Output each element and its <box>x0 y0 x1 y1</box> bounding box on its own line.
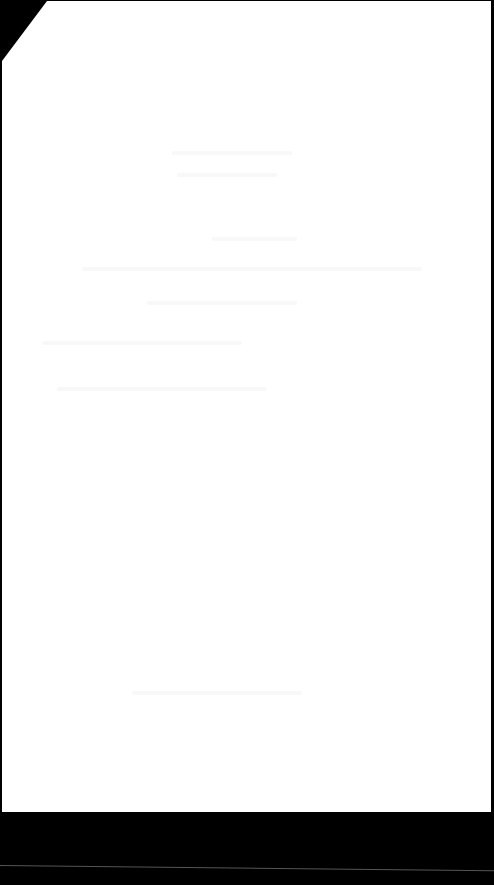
ghost-line <box>57 387 267 391</box>
ghost-line <box>177 173 277 177</box>
ghost-line <box>172 151 292 155</box>
ghost-line <box>82 267 422 271</box>
scanner-edge-line <box>0 865 494 871</box>
ghost-line <box>147 301 297 305</box>
ghost-line <box>42 341 242 345</box>
scanned-page <box>2 1 491 812</box>
ghost-line <box>132 691 302 695</box>
ghost-line <box>212 237 297 241</box>
